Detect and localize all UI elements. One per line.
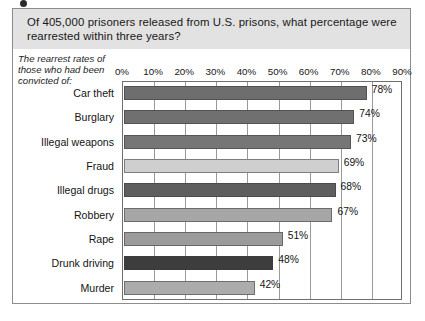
category-label: Illegal weapons: [41, 130, 114, 154]
bar-row: 67%: [123, 204, 401, 228]
x-tick-label: 30%: [206, 66, 226, 77]
category-label: Burglary: [75, 105, 114, 129]
x-tick-label: 90%: [392, 66, 412, 77]
x-tick-label: 20%: [174, 66, 194, 77]
category-label: Fraud: [86, 154, 114, 178]
bar-row: 78%: [123, 82, 401, 106]
bar-value-label: 51%: [288, 230, 309, 241]
bar: [124, 183, 336, 197]
bar-row: 68%: [123, 179, 401, 203]
bar-row: 69%: [123, 155, 401, 179]
bar: [124, 110, 354, 124]
plot-area: 78%74%73%69%68%67%51%48%42%: [122, 81, 402, 300]
bar: [124, 135, 351, 149]
bar-row: 48%: [123, 252, 401, 276]
category-label: Drunk driving: [52, 251, 114, 275]
x-tick-label: 60%: [299, 66, 319, 77]
bar-row: 73%: [123, 131, 401, 155]
bar: [124, 281, 255, 295]
category-label: Robbery: [74, 203, 114, 227]
x-tick-label: 10%: [143, 66, 163, 77]
bar-value-label: 73%: [356, 133, 377, 144]
bar-value-label: 67%: [337, 206, 358, 217]
chart-figure: Of 405,000 prisoners released from U.S. …: [12, 8, 411, 304]
bar-value-label: 69%: [344, 157, 365, 168]
category-label: Illegal drugs: [57, 178, 114, 202]
bar: [124, 159, 339, 173]
x-tick-label: 50%: [268, 66, 288, 77]
bar: [124, 232, 283, 246]
x-tick-label: 0%: [115, 66, 129, 77]
x-tick-label: 40%: [237, 66, 257, 77]
bar-row: 42%: [123, 277, 401, 301]
bar: [124, 256, 273, 270]
x-tick-label: 70%: [330, 66, 350, 77]
category-label: Rape: [89, 227, 114, 251]
bar-row: 74%: [123, 106, 401, 130]
category-label: Car theft: [73, 81, 114, 105]
bar-rows: 78%74%73%69%68%67%51%48%42%: [123, 82, 401, 299]
category-labels: Car theftBurglaryIllegal weaponsFraudIll…: [13, 81, 118, 300]
x-tick-label: 80%: [361, 66, 381, 77]
scan-artifact-mark: [20, 0, 27, 7]
category-label: Murder: [80, 276, 114, 300]
x-axis-tick-labels: 0%10%20%30%40%50%60%70%80%90%: [13, 66, 410, 80]
bar-value-label: 78%: [372, 84, 393, 95]
bar-value-label: 48%: [278, 254, 299, 265]
bar: [124, 208, 332, 222]
bar-value-label: 42%: [260, 279, 281, 290]
bar-row: 51%: [123, 228, 401, 252]
chart-title: Of 405,000 prisoners released from U.S. …: [27, 16, 398, 43]
title-banner: Of 405,000 prisoners released from U.S. …: [13, 9, 410, 49]
bar-value-label: 68%: [341, 181, 362, 192]
bar: [124, 86, 367, 100]
bar-value-label: 74%: [359, 108, 380, 119]
